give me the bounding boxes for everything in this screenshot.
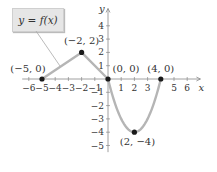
point-label: (0, 0) bbox=[113, 63, 140, 74]
x-tick-label: −4 bbox=[49, 83, 63, 93]
leader-line bbox=[36, 31, 60, 66]
data-point bbox=[39, 76, 44, 81]
y-axis-label: y bbox=[98, 3, 105, 14]
point-label: (−2, 2) bbox=[64, 35, 99, 46]
y-tick-label: 2 bbox=[98, 47, 104, 57]
point-label: (−5, 0) bbox=[10, 63, 45, 74]
x-tick-label: 6 bbox=[184, 83, 190, 93]
y-tick-label: −1 bbox=[91, 87, 104, 97]
x-tick-label: −5 bbox=[35, 83, 49, 93]
data-point bbox=[105, 76, 110, 81]
data-point bbox=[132, 130, 137, 135]
x-tick-label: 2 bbox=[132, 83, 138, 93]
y-tick-label: −3 bbox=[91, 114, 105, 124]
y-tick-label: −5 bbox=[91, 141, 105, 151]
x-tick-label: −2 bbox=[75, 83, 88, 93]
x-axis-label: x bbox=[198, 82, 204, 93]
x-tick-label: 1 bbox=[118, 83, 124, 93]
y-tick-label: −2 bbox=[91, 101, 104, 111]
x-tick-label: −6 bbox=[22, 83, 36, 93]
data-point bbox=[79, 50, 84, 55]
data-point bbox=[158, 76, 163, 81]
function-graph: xy−6−5−4−3−2−112356−5−4−3−2−11234(−5, 0)… bbox=[0, 0, 217, 172]
y-tick-label: 4 bbox=[98, 21, 104, 31]
y-tick-label: −4 bbox=[91, 127, 105, 137]
point-label: (2, −4) bbox=[120, 136, 155, 147]
point-label: (4, 0) bbox=[147, 63, 174, 74]
x-tick-label: −3 bbox=[62, 83, 76, 93]
x-tick-label: 5 bbox=[171, 83, 177, 93]
x-tick-label: 3 bbox=[145, 83, 151, 93]
